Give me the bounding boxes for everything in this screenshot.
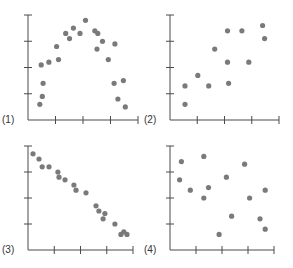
data-point (106, 57, 111, 62)
data-point (62, 177, 67, 182)
data-point (71, 182, 76, 187)
data-point (112, 221, 117, 226)
data-point (73, 188, 78, 193)
data-point (242, 162, 247, 167)
data-point (56, 175, 61, 180)
data-point (46, 60, 51, 65)
data-point (201, 195, 206, 200)
data-point (83, 190, 88, 195)
data-point (123, 104, 128, 109)
scatter-panel-3: (3) (2, 146, 133, 255)
data-point (260, 23, 265, 28)
data-point (46, 164, 51, 169)
scatter-panel-1: (1) (2, 15, 138, 125)
data-point (212, 47, 217, 52)
data-point (112, 41, 117, 46)
scatter-plot-grid: (1)(2)(3)(4) (0, 0, 293, 268)
data-point (83, 18, 88, 23)
data-point (201, 154, 206, 159)
data-point (102, 211, 107, 216)
data-point (41, 81, 46, 86)
panel-label: (4) (144, 244, 156, 255)
data-point (101, 216, 106, 221)
data-point (40, 164, 45, 169)
data-point (95, 31, 100, 36)
data-point (121, 78, 126, 83)
data-point (63, 31, 68, 36)
data-point (225, 28, 230, 33)
panel-label: (2) (144, 114, 156, 125)
data-point (247, 195, 252, 200)
data-point (229, 214, 234, 219)
data-point (37, 102, 42, 107)
panel-label: (3) (2, 244, 14, 255)
data-point (67, 36, 72, 41)
data-point (182, 83, 187, 88)
data-point (71, 26, 76, 31)
data-point (226, 81, 231, 86)
data-point (39, 62, 44, 67)
data-point (182, 102, 187, 107)
data-point (94, 47, 99, 52)
data-point (239, 28, 244, 33)
data-point (54, 44, 59, 49)
data-point (179, 159, 184, 164)
data-point (263, 227, 268, 232)
data-point (93, 203, 98, 208)
data-point (77, 31, 82, 36)
data-point (112, 81, 117, 86)
panel-label: (1) (2, 114, 14, 125)
data-point (262, 36, 267, 41)
data-point (40, 94, 45, 99)
data-point (96, 208, 101, 213)
data-point (30, 151, 35, 156)
data-point (55, 169, 60, 174)
data-point (206, 83, 211, 88)
data-point (100, 39, 105, 44)
data-point (224, 175, 229, 180)
data-point (36, 156, 41, 161)
data-point (56, 57, 61, 62)
data-point (124, 232, 129, 237)
scatter-panel-4: (4) (144, 146, 274, 255)
scatter-panel-2: (2) (144, 15, 279, 125)
data-point (263, 188, 268, 193)
data-point (115, 96, 120, 101)
data-point (217, 232, 222, 237)
data-point (225, 60, 230, 65)
data-point (188, 188, 193, 193)
data-point (195, 73, 200, 78)
data-point (257, 216, 262, 221)
data-point (177, 177, 182, 182)
data-point (246, 60, 251, 65)
data-point (206, 185, 211, 190)
